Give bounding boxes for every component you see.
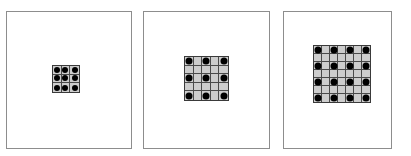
grid-cell (362, 78, 370, 86)
grid-cell (362, 62, 370, 70)
grid-cell (185, 74, 194, 83)
grid-dot (54, 75, 60, 81)
grid-dot (220, 92, 227, 99)
grid-cell (314, 46, 322, 54)
grid-cell (346, 54, 354, 62)
grid-cell (70, 83, 79, 92)
grid-cell (194, 74, 203, 83)
grid-cell (346, 70, 354, 78)
grid-dot (62, 67, 68, 73)
grid-cell (338, 54, 346, 62)
grid-cell (354, 54, 362, 62)
grid-cell (354, 94, 362, 102)
grid-cell (185, 91, 194, 100)
grid-cell (211, 91, 220, 100)
grid-cell (314, 78, 322, 86)
grid-cell (322, 54, 330, 62)
grid-cell (70, 66, 79, 75)
grid-cell (62, 66, 71, 75)
grid-cell (202, 74, 211, 83)
grid-cell (322, 62, 330, 70)
grid-cell (211, 74, 220, 83)
grid-cell (346, 62, 354, 70)
grid-cell (219, 57, 228, 66)
grid-cell (185, 66, 194, 75)
grid-dot (72, 85, 78, 91)
grid-cell (338, 94, 346, 102)
grid-cell (330, 94, 338, 102)
grid-cell (330, 54, 338, 62)
panel-3-grid (313, 45, 371, 103)
grid-cell (194, 83, 203, 92)
grid-cell (202, 66, 211, 75)
grid-dot (72, 67, 78, 73)
panel-2-grid (184, 56, 229, 101)
grid-cell (346, 46, 354, 54)
grid-cell (330, 86, 338, 94)
grid-dot (185, 92, 192, 99)
grid-dot (314, 46, 321, 53)
grid-cell (202, 57, 211, 66)
grid-dot (363, 95, 370, 102)
grid-cell (202, 83, 211, 92)
grid-cell (338, 62, 346, 70)
grid-cell (346, 78, 354, 86)
grid-cell (219, 91, 228, 100)
grid-cell (314, 62, 322, 70)
grid-cell (314, 70, 322, 78)
grid-cell (53, 83, 62, 92)
grid-cell (354, 70, 362, 78)
grid-cell (219, 83, 228, 92)
grid-dot (330, 62, 337, 69)
grid-cell (322, 70, 330, 78)
grid-dot (185, 74, 192, 81)
grid-cell (219, 66, 228, 75)
grid-cell (185, 57, 194, 66)
grid-dot (62, 85, 68, 91)
grid-dot (72, 75, 78, 81)
grid-cell (62, 75, 71, 84)
grid-dot (314, 62, 321, 69)
grid-cell (194, 66, 203, 75)
grid-dot (330, 95, 337, 102)
grid-dot (202, 92, 209, 99)
grid-dot (220, 57, 227, 64)
grid-cell (322, 78, 330, 86)
grid-cell (362, 70, 370, 78)
grid-cell (330, 70, 338, 78)
grid-dot (54, 67, 60, 73)
grid-cell (362, 46, 370, 54)
grid-cell (346, 94, 354, 102)
grid-cell (362, 54, 370, 62)
grid-cell (354, 62, 362, 70)
grid-cell (330, 62, 338, 70)
grid-cell (53, 75, 62, 84)
grid-cell (53, 66, 62, 75)
grid-cell (338, 46, 346, 54)
grid-cell (322, 94, 330, 102)
grid-cell (314, 86, 322, 94)
grid-cell (354, 86, 362, 94)
grid-cell (219, 74, 228, 83)
grid-dot (346, 62, 353, 69)
grid-cell (354, 78, 362, 86)
grid-dot (363, 78, 370, 85)
grid-cell (202, 91, 211, 100)
grid-cell (314, 54, 322, 62)
panel-1-grid (52, 65, 80, 93)
grid-dot (220, 74, 227, 81)
grid-dot (363, 46, 370, 53)
grid-dot (185, 57, 192, 64)
grid-dot (62, 75, 68, 81)
grid-cell (211, 57, 220, 66)
grid-dot (346, 78, 353, 85)
grid-cell (322, 86, 330, 94)
grid-cell (362, 94, 370, 102)
grid-dot (202, 74, 209, 81)
grid-dot (314, 95, 321, 102)
grid-dot (330, 78, 337, 85)
grid-cell (194, 57, 203, 66)
grid-cell (330, 46, 338, 54)
grid-dot (346, 95, 353, 102)
grid-cell (194, 91, 203, 100)
